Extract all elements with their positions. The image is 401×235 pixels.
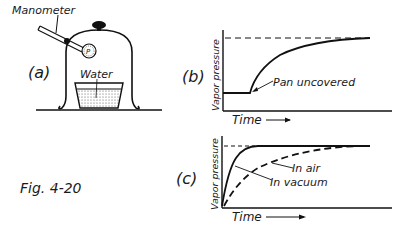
figure-caption: Fig. 4-20: [20, 180, 82, 196]
panel-c-air-leader: [272, 163, 293, 168]
panel-b-xlabel: Time: [232, 113, 262, 127]
panel-b-ylabel: Vapor pressure: [210, 39, 221, 111]
figure-canvas: P Manometer (a) Water Pan uncovered: [0, 0, 401, 235]
panel-b-annotation: Pan uncovered: [273, 76, 356, 89]
water-pan-icon: [75, 83, 123, 108]
panel-a-label: (a): [28, 63, 50, 82]
panel-c-xlabel: Time: [232, 210, 262, 224]
panel-b-arrowhead-icon: [252, 87, 258, 92]
knob-stem: [97, 27, 101, 31]
manometer-leader: [56, 15, 58, 33]
panel-b-chart: Pan uncovered Vapor pressure (b) Time: [182, 30, 392, 127]
panel-c-vacuum-leader: [235, 166, 272, 180]
panel-b-label: (b): [182, 67, 205, 86]
panel-a-apparatus: P Manometer (a) Water: [12, 4, 162, 110]
panel-c-label: (c): [176, 169, 197, 188]
panel-c-annotation-air: In air: [292, 162, 322, 175]
manometer-label: Manometer: [12, 4, 76, 17]
panel-c-chart: In air In vacuum Vapor pressure (c) Time: [176, 136, 392, 224]
panel-c-time-arrowhead-icon: [299, 215, 306, 220]
panel-b-time-arrowhead-icon: [285, 118, 291, 123]
panel-c-ylabel: Vapor pressure: [209, 138, 220, 210]
panel-c-annotation-vacuum: In vacuum: [270, 176, 328, 189]
